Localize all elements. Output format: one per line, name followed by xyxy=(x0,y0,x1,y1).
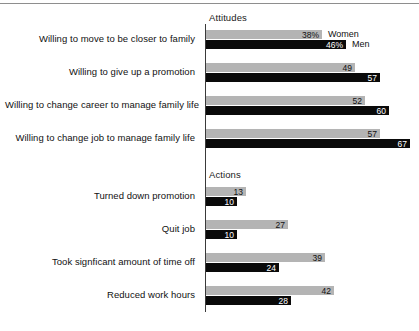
bar-women: 27 xyxy=(206,220,288,229)
bar-group: Took signficant amount of time off3924 xyxy=(0,251,419,275)
bar-women: 38% xyxy=(206,30,322,39)
bar-group: Quit job2710 xyxy=(0,218,419,242)
bar-group: Turned down promotion1310 xyxy=(0,185,419,209)
bar-value-label: 49 xyxy=(343,63,352,72)
bar-value-label: 24 xyxy=(267,263,276,272)
category-label: Turned down promotion xyxy=(5,190,195,201)
bar-men: 46% xyxy=(206,40,346,49)
category-label: Willing to change job to manage family l… xyxy=(5,132,195,143)
category-label: Took signficant amount of time off xyxy=(5,256,195,267)
bar-value-label: 10 xyxy=(225,197,234,206)
bar-group: Willing to change career to manage famil… xyxy=(0,94,419,118)
bar-value-label: 57 xyxy=(368,129,377,138)
bar-men: 10 xyxy=(206,230,237,239)
bar-value-label: 52 xyxy=(353,96,362,105)
bar-value-label: 42 xyxy=(322,286,331,295)
bar-men: 10 xyxy=(206,197,237,206)
bar-women: 39 xyxy=(206,253,325,262)
bar-men: 57 xyxy=(206,73,380,82)
bar-women: 57 xyxy=(206,129,380,138)
bar-value-label: 67 xyxy=(398,139,407,148)
bar-value-label: 60 xyxy=(377,106,386,115)
bar-men: 60 xyxy=(206,106,389,115)
bar-men: 67 xyxy=(206,139,410,148)
bar-men: 28 xyxy=(206,296,291,305)
grouped-bar-chart: Attitudes Actions Willing to move to be … xyxy=(0,0,419,331)
bar-value-label: 57 xyxy=(368,73,377,82)
bar-men: 24 xyxy=(206,263,279,272)
bar-group: Willing to give up a promotion4957 xyxy=(0,61,419,85)
legend-label-men: Men xyxy=(352,39,370,49)
bar-value-label: 10 xyxy=(225,230,234,239)
bar-value-label: 28 xyxy=(279,296,288,305)
section-title-actions: Actions xyxy=(209,169,241,180)
bar-value-label: 13 xyxy=(234,187,243,196)
bar-group: Reduced work hours4228 xyxy=(0,284,419,308)
bar-value-label: 46% xyxy=(326,40,343,49)
category-label: Willing to give up a promotion xyxy=(5,66,195,77)
bar-value-label: 27 xyxy=(276,220,285,229)
bar-value-label: 38% xyxy=(302,30,319,39)
bar-women: 42 xyxy=(206,286,334,295)
legend-label-women: Women xyxy=(328,29,359,39)
category-label: Quit job xyxy=(5,223,195,234)
bar-women: 52 xyxy=(206,96,365,105)
bar-women: 13 xyxy=(206,187,246,196)
category-label: Willing to change career to manage famil… xyxy=(5,99,195,110)
bar-value-label: 39 xyxy=(313,253,322,262)
bar-women: 49 xyxy=(206,63,355,72)
category-label: Willing to move to be closer to family xyxy=(5,33,195,44)
bar-group: Willing to change job to manage family l… xyxy=(0,127,419,151)
section-title-attitudes: Attitudes xyxy=(209,12,247,23)
category-label: Reduced work hours xyxy=(5,289,195,300)
